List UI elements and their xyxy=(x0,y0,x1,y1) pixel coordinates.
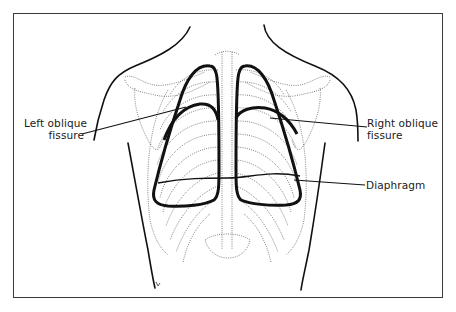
label-line: Left oblique xyxy=(24,117,84,129)
right-lung xyxy=(236,66,300,205)
thorax-diagram xyxy=(0,0,456,312)
skeleton-ribcage xyxy=(125,51,330,262)
right-oblique-fissure xyxy=(236,107,297,134)
artist-mark xyxy=(156,282,160,286)
label-line: Right oblique xyxy=(367,117,438,129)
diaphragm-leader xyxy=(294,180,365,185)
diaphragm-line xyxy=(158,174,300,183)
left-oblique-fissure xyxy=(164,104,218,140)
label-line: fissure xyxy=(24,129,84,141)
label-right-oblique-fissure: Right oblique fissure xyxy=(367,117,438,141)
label-left-oblique-fissure: Left oblique fissure xyxy=(24,117,84,141)
label-diaphragm: Diaphragm xyxy=(366,179,425,191)
right-fissure-leader xyxy=(270,118,367,127)
body-outline xyxy=(94,25,358,290)
label-line: fissure xyxy=(367,129,438,141)
